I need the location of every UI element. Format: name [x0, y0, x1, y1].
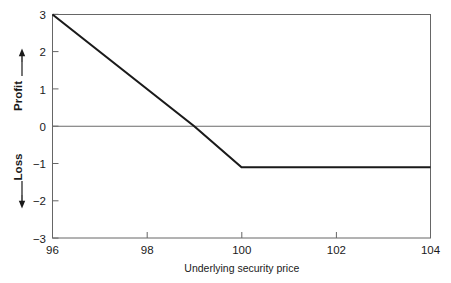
x-tick-label-96: 96	[46, 244, 59, 256]
y-axis-title-loss: Loss	[12, 154, 24, 181]
y-tick-label-0: 0	[40, 121, 46, 133]
y-tick-label-2: 2	[40, 46, 46, 58]
y-tick-label-neg3: −3	[33, 233, 46, 245]
y-tick-label-neg2: −2	[33, 195, 46, 207]
x-tick-label-104: 104	[421, 244, 441, 256]
payoff-chart-svg: 3 2 1 0 −1 −2 −3 96 98 100 102 104 Under…	[0, 0, 451, 283]
x-tick-label-100: 100	[232, 244, 251, 256]
y-axis-title-profit: Profit	[12, 81, 24, 111]
y-tick-label-3: 3	[40, 9, 46, 21]
y-tick-label-1: 1	[40, 84, 46, 96]
x-axis-title: Underlying security price	[184, 262, 299, 274]
chart-background	[0, 0, 451, 283]
y-tick-label-neg1: −1	[33, 158, 46, 170]
chart-figure: 3 2 1 0 −1 −2 −3 96 98 100 102 104 Under…	[0, 0, 451, 283]
x-tick-label-98: 98	[141, 244, 154, 256]
x-tick-label-102: 102	[327, 244, 346, 256]
